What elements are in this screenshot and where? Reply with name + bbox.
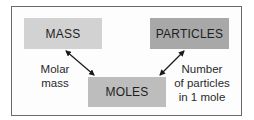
edge-label-line: Molar: [38, 62, 72, 76]
edge-label-line: mass: [38, 76, 72, 90]
edge-label-line: Number: [170, 62, 234, 76]
edge-label-line: of particles: [170, 76, 234, 90]
edge-label-molar-mass: Molar mass: [38, 62, 72, 90]
edge-label-line: in 1 mole: [170, 90, 234, 104]
edge-label-particles-per-mole: Number of particles in 1 mole: [170, 62, 234, 104]
